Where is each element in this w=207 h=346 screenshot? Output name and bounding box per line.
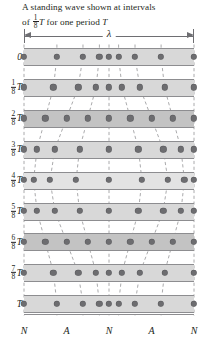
time-fraction: 38 — [11, 141, 17, 157]
wave-particle-dot — [191, 116, 196, 121]
row-separator-line — [24, 96, 194, 97]
wavelength-ruler: λ — [24, 28, 194, 44]
row-separator-line — [24, 189, 194, 190]
arrowhead-left-icon — [24, 32, 31, 38]
fraction-numerator: 4 — [11, 172, 17, 180]
row-separator-line — [24, 295, 194, 296]
time-label-0: 0 — [0, 52, 22, 62]
wave-particle-dot — [191, 146, 196, 151]
arrowhead-right-icon — [187, 32, 194, 38]
time-label-1: 18T — [0, 79, 22, 95]
time-axis-labels: 018T28T38T48T58T68T78TT — [0, 44, 22, 321]
row-separator-line — [24, 110, 194, 111]
fraction-denominator: 8 — [11, 180, 17, 189]
wave-particle-dot — [191, 85, 196, 90]
caption-of: of — [22, 17, 32, 27]
fraction-numerator: 2 — [11, 110, 17, 118]
fraction-denominator: 8 — [11, 211, 17, 220]
wave-plot — [24, 44, 194, 321]
time-fraction: 48 — [11, 172, 17, 188]
row-separator-line — [24, 127, 194, 128]
fraction-denominator: 8 — [11, 241, 17, 250]
time-label-3: 38T — [0, 141, 22, 157]
row-separator-line — [24, 172, 194, 173]
fraction-numerator: 3 — [11, 141, 17, 149]
caption-tail: for one period — [44, 17, 102, 27]
fraction-numerator: 6 — [11, 234, 17, 242]
wave-particle-dot — [191, 177, 196, 182]
figure-caption: A standing wave shown at intervals of 18… — [22, 1, 202, 30]
fraction-numerator: 1 — [33, 14, 39, 22]
row-separator-line — [24, 48, 194, 49]
node-label: N — [191, 324, 198, 337]
time-label-6: 68T — [0, 234, 22, 250]
row-separator-line — [24, 141, 194, 142]
time-label-7: 78T — [0, 265, 22, 281]
time-label-2: 28T — [0, 110, 22, 126]
node-antinode-labels: NANAN — [24, 324, 194, 340]
time-label-8: T — [0, 299, 22, 309]
row-separator-line — [24, 158, 194, 159]
caption-line-1: A standing wave shown at intervals — [22, 1, 202, 14]
row-separator-line — [24, 65, 194, 66]
time-fraction: 78 — [11, 265, 17, 281]
node-label: N — [106, 324, 113, 337]
time-label-5: 58T — [0, 203, 22, 219]
wave-particle-dot — [191, 301, 196, 306]
fraction-denominator: 8 — [11, 149, 17, 158]
fraction-numerator: 1 — [11, 79, 17, 87]
time-fraction: 58 — [11, 203, 17, 219]
caption-period-symbol-2: T — [102, 17, 107, 27]
row-separator-line — [24, 250, 194, 251]
plot-baseline — [24, 314, 194, 315]
row-separator-line — [24, 220, 194, 221]
row-separator-line — [24, 203, 194, 204]
wave-particle-dot — [191, 54, 196, 59]
node-label: N — [21, 324, 28, 337]
antinode-label: A — [63, 324, 69, 337]
row-separator-line — [24, 79, 194, 80]
fraction-denominator: 8 — [11, 118, 17, 127]
fraction-numerator: 5 — [11, 203, 17, 211]
row-separator-line — [24, 233, 194, 234]
time-label-4: 48T — [0, 172, 22, 188]
wavelength-label: λ — [103, 27, 116, 41]
row-separator-line — [24, 264, 194, 265]
antinode-label: A — [148, 324, 154, 337]
time-fraction: 18 — [11, 79, 17, 95]
time-fraction: 68 — [11, 234, 17, 250]
fraction-numerator: 7 — [11, 265, 17, 273]
standing-wave-figure: A standing wave shown at intervals of 18… — [0, 0, 207, 346]
row-separator-line — [24, 281, 194, 282]
wave-particle-dot — [191, 239, 196, 244]
wave-particle-dot — [191, 208, 196, 213]
wave-particle-dot — [191, 270, 196, 275]
fraction-denominator: 8 — [11, 87, 17, 96]
fraction-denominator: 8 — [11, 272, 17, 281]
time-fraction: 28 — [11, 110, 17, 126]
